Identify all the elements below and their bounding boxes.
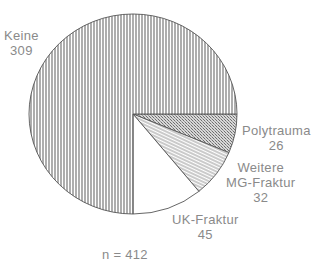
label-weitere-line2: MG-Fraktur [226,175,295,190]
label-keine-name: Keine [4,28,39,43]
label-polytrauma-name: Polytrauma [242,123,311,138]
label-keine-value: 309 [4,43,39,58]
label-weitere-value: 32 [226,190,295,205]
label-uk-value: 45 [172,227,239,242]
sample-size: n = 412 [102,247,148,262]
label-uk-fraktur: UK-Fraktur 45 [172,212,239,242]
label-weitere: Weitere MG-Fraktur 32 [226,160,295,205]
label-polytrauma: Polytrauma 26 [242,123,311,153]
label-uk-name: UK-Fraktur [172,212,239,227]
pie-slices [29,14,237,214]
label-weitere-line1: Weitere [226,160,295,175]
label-polytrauma-value: 26 [242,138,311,153]
label-keine: Keine 309 [4,28,39,58]
